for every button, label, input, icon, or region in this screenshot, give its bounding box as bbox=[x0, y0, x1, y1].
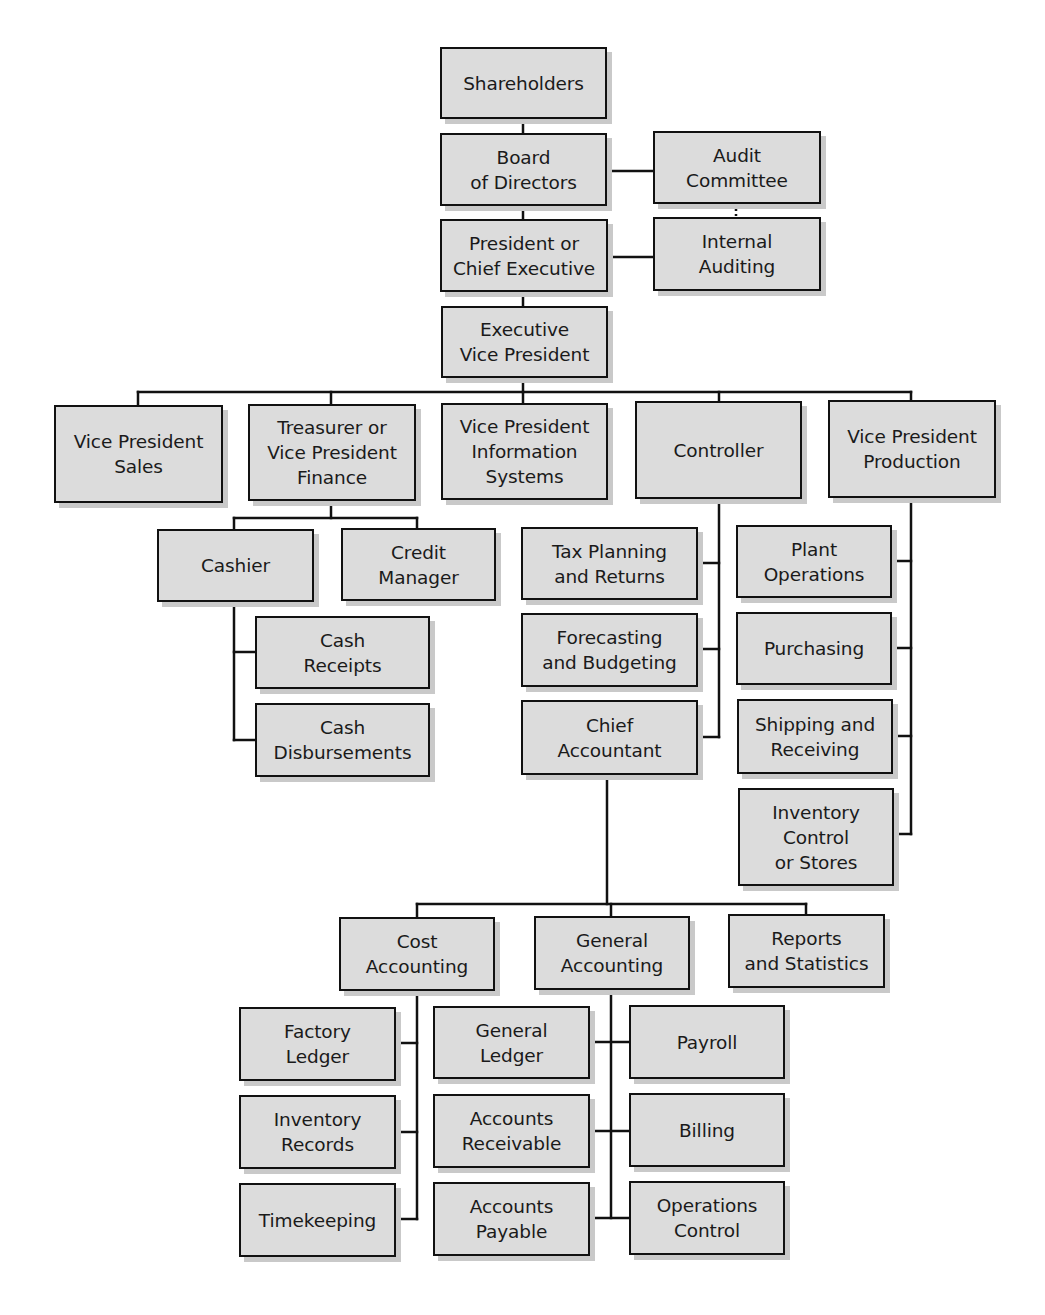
node-vp-production: Vice President Production bbox=[828, 400, 996, 498]
node-payroll: Payroll bbox=[629, 1005, 785, 1079]
node-vp-information-systems: Vice President Information Systems bbox=[441, 403, 608, 500]
node-tax-planning: Tax Planning and Returns bbox=[521, 527, 698, 600]
node-timekeeping: Timekeeping bbox=[239, 1183, 396, 1257]
node-billing: Billing bbox=[629, 1093, 785, 1167]
node-cash-receipts: Cash Receipts bbox=[255, 616, 430, 689]
node-shipping-receiving: Shipping and Receiving bbox=[737, 699, 893, 774]
node-accounts-receivable: Accounts Receivable bbox=[433, 1094, 590, 1168]
node-shareholders: Shareholders bbox=[440, 47, 607, 119]
node-cost-accounting: Cost Accounting bbox=[339, 917, 495, 991]
node-operations-control: Operations Control bbox=[629, 1181, 785, 1255]
node-plant-operations: Plant Operations bbox=[736, 525, 892, 598]
node-inventory-records: Inventory Records bbox=[239, 1095, 396, 1169]
node-accounts-payable: Accounts Payable bbox=[433, 1182, 590, 1256]
node-forecasting-budgeting: Forecasting and Budgeting bbox=[521, 613, 698, 687]
node-reports-statistics: Reports and Statistics bbox=[728, 914, 885, 988]
node-executive-vice-president: Executive Vice President bbox=[441, 306, 608, 378]
node-inventory-control: Inventory Control or Stores bbox=[738, 788, 894, 886]
org-chart: Shareholders Board of Directors Audit Co… bbox=[0, 0, 1045, 1315]
node-general-accounting: General Accounting bbox=[534, 916, 690, 990]
node-vp-sales: Vice President Sales bbox=[54, 405, 223, 503]
node-president: President or Chief Executive bbox=[440, 219, 608, 292]
node-credit-manager: Credit Manager bbox=[341, 528, 496, 601]
node-internal-auditing: Internal Auditing bbox=[653, 217, 821, 291]
node-general-ledger: General Ledger bbox=[433, 1006, 590, 1079]
node-treasurer: Treasurer or Vice President Finance bbox=[248, 404, 416, 501]
node-controller: Controller bbox=[635, 401, 802, 499]
node-factory-ledger: Factory Ledger bbox=[239, 1007, 396, 1081]
node-purchasing: Purchasing bbox=[736, 612, 892, 685]
node-cash-disbursements: Cash Disbursements bbox=[255, 703, 430, 777]
node-chief-accountant: Chief Accountant bbox=[521, 700, 698, 775]
node-audit-committee: Audit Committee bbox=[653, 131, 821, 204]
node-board-of-directors: Board of Directors bbox=[440, 133, 607, 206]
node-cashier: Cashier bbox=[157, 529, 314, 602]
